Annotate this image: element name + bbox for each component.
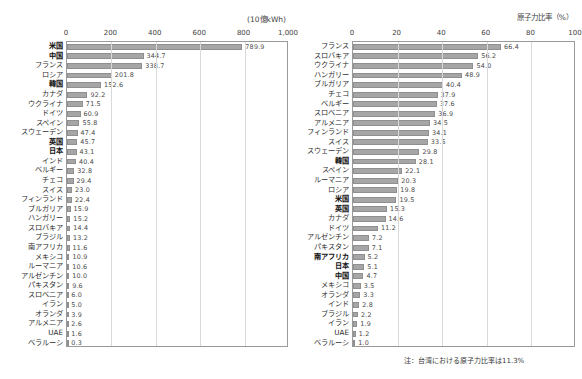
category-label: フランス	[0, 61, 63, 68]
bar-value-label: 11.6	[73, 244, 88, 252]
bar-row: 19.5	[353, 197, 574, 203]
category-label: 英国	[292, 205, 349, 212]
bar	[67, 44, 242, 50]
bar-value-label: 14.4	[73, 224, 88, 232]
category-label: パキスタン	[292, 243, 349, 250]
category-label: ブラジル	[292, 310, 349, 317]
bar-row: 37.9	[353, 92, 574, 98]
bar-value-label: 56.2	[481, 52, 496, 60]
bar-row: 2.6	[67, 321, 287, 327]
bar-row: 37.6	[353, 101, 574, 107]
bar-value-label: 5.2	[368, 253, 379, 261]
bar	[353, 245, 369, 251]
bar-row: 10.6	[67, 264, 287, 270]
bar-row: 15.2	[67, 216, 287, 222]
bar-row: 338.7	[67, 63, 287, 69]
x-axis-tick: 400	[148, 29, 161, 37]
category-label: スペイン	[0, 119, 63, 126]
bar-value-label: 60.9	[84, 110, 99, 118]
bar	[353, 321, 357, 327]
bar-row: 29.4	[67, 178, 287, 184]
bar	[67, 101, 83, 107]
bar-row: 56.2	[353, 53, 574, 59]
category-label: オランダ	[292, 291, 349, 298]
category-label: オランダ	[0, 310, 63, 317]
bar-row: 152.6	[67, 82, 287, 88]
right-x-axis: 020406080100	[292, 29, 581, 41]
category-label: ベルギー	[0, 166, 63, 173]
bar-value-label: 9.6	[72, 282, 83, 290]
category-label: ドイツ	[0, 109, 63, 116]
bar	[67, 120, 79, 126]
category-label: ドイツ	[292, 224, 349, 231]
bar	[67, 149, 77, 155]
category-label: スペイン	[292, 166, 349, 173]
x-axis-tick: 60	[481, 29, 490, 37]
bar	[67, 226, 70, 232]
bar-row: 19.8	[353, 187, 574, 193]
category-label: 中国	[0, 52, 63, 59]
category-label: スイス	[0, 186, 63, 193]
bar-row: 5.1	[353, 264, 574, 270]
bar-value-label: 5.1	[367, 263, 378, 271]
bar-value-label: 13.2	[73, 234, 88, 242]
bar	[353, 235, 369, 241]
bar	[67, 111, 81, 117]
bar	[67, 187, 72, 193]
bar-row: 6.0	[67, 292, 287, 298]
bar	[353, 44, 501, 50]
category-label: スイス	[292, 138, 349, 145]
bar	[67, 92, 87, 98]
bar	[353, 187, 397, 193]
bar-row: 3.5	[353, 283, 574, 289]
category-label: 南アフリカ	[0, 243, 63, 250]
bar-value-label: 2.6	[71, 320, 82, 328]
bar-row: 15.3	[353, 206, 574, 212]
bar-value-label: 45.7	[80, 138, 95, 146]
bar-row: 5.0	[67, 302, 287, 308]
bar-row: 22.1	[353, 168, 574, 174]
bar-row: 13.2	[67, 235, 287, 241]
category-label: インド	[0, 157, 63, 164]
bar	[353, 283, 361, 289]
bar-row: 33.5	[353, 139, 574, 145]
x-axis-tick: 100	[568, 29, 581, 37]
bar-value-label: 4.7	[366, 272, 377, 280]
bar-value-label: 47.4	[81, 129, 96, 137]
bar	[353, 331, 356, 337]
category-label: スウェーデン	[292, 147, 349, 154]
bar-row: 2.8	[353, 302, 574, 308]
bar	[67, 159, 76, 165]
bar	[67, 254, 69, 260]
bar-row: 10.0	[67, 273, 287, 279]
bar	[353, 340, 355, 346]
x-axis-tick: 80	[526, 29, 535, 37]
gridline	[442, 42, 443, 346]
bar	[353, 120, 430, 126]
bar-value-label: 19.5	[399, 196, 414, 204]
bar-row: 34.5	[353, 120, 574, 126]
bar-value-label: 1.0	[358, 339, 369, 347]
category-label: フィンランド	[0, 195, 63, 202]
category-label: ロシア	[0, 71, 63, 78]
bar-value-label: 54.0	[476, 62, 491, 70]
x-axis-tick: 40	[437, 29, 446, 37]
bar-value-label: 5.0	[71, 301, 82, 309]
category-label: ウクライナ	[292, 61, 349, 68]
bar-value-label: 22.4	[75, 196, 90, 204]
bar-row: 60.9	[67, 111, 287, 117]
category-label: ベルギー	[292, 100, 349, 107]
bar-row: 7.1	[353, 245, 574, 251]
gridline	[156, 42, 157, 346]
category-label: 韓国	[292, 157, 349, 164]
category-label: イラン	[292, 319, 349, 326]
bar-value-label: 6.0	[71, 291, 82, 299]
category-label: スロバキア	[0, 224, 63, 231]
bar-row: 40.4	[353, 82, 574, 88]
bar	[353, 254, 365, 260]
category-label: 韓国	[0, 80, 63, 87]
bar-value-label: 48.9	[465, 71, 480, 79]
bar-row: 48.9	[353, 73, 574, 79]
bar-row: 1.9	[353, 321, 574, 327]
bar-value-label: 34.1	[432, 129, 447, 137]
